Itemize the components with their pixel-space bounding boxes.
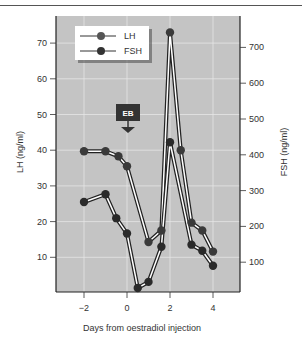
- y2-axis-label: FSH (ng/ml): [279, 128, 289, 177]
- data-point: [166, 138, 174, 146]
- x-tick-label: 0: [124, 303, 129, 313]
- data-point: [114, 152, 122, 160]
- y-tick-label: 30: [37, 181, 47, 191]
- y-tick-label: 40: [37, 145, 47, 155]
- data-point: [144, 238, 152, 246]
- eb-label: EB: [122, 109, 133, 118]
- x-tick-label: 2: [167, 303, 172, 313]
- legend-fsh: FSH: [124, 46, 142, 56]
- y2-tick-label: 300: [249, 186, 264, 196]
- data-point: [101, 190, 109, 198]
- data-point: [157, 243, 165, 251]
- y2-tick-label: 500: [249, 114, 264, 124]
- x-tick-label: 4: [210, 303, 215, 313]
- x-tick-label: −2: [79, 303, 89, 313]
- data-point: [177, 146, 185, 154]
- y2-tick-label: 100: [249, 257, 264, 267]
- y-tick-label: 20: [37, 217, 47, 227]
- y-axis-label: LH (ng/ml): [15, 131, 25, 173]
- y2-tick-label: 600: [249, 78, 264, 88]
- data-point: [123, 229, 131, 237]
- data-point: [157, 226, 165, 234]
- data-point: [166, 28, 174, 36]
- legend-lh: LH: [124, 31, 136, 41]
- y-tick-label: 70: [37, 38, 47, 48]
- lh-marker-icon: [97, 32, 105, 40]
- legend: LH FSH: [75, 26, 152, 63]
- fsh-marker-icon: [97, 47, 105, 55]
- data-point: [80, 198, 88, 206]
- y-tick-label: 10: [37, 252, 47, 262]
- y-tick-label: 50: [37, 110, 47, 120]
- data-point: [198, 247, 206, 255]
- data-point: [112, 214, 120, 222]
- data-point: [187, 240, 195, 248]
- y2-tick-label: 400: [249, 150, 264, 160]
- data-point: [198, 226, 206, 234]
- data-point: [134, 284, 142, 292]
- data-point: [144, 278, 152, 286]
- data-point: [123, 162, 131, 170]
- chart: 10203040506070100200300400500600700−2024…: [0, 0, 302, 344]
- y-tick-label: 60: [37, 74, 47, 84]
- data-point: [80, 147, 88, 155]
- y2-tick-label: 200: [249, 221, 264, 231]
- data-point: [209, 247, 217, 255]
- data-point: [187, 218, 195, 226]
- y2-tick-label: 700: [249, 42, 264, 52]
- data-point: [209, 262, 217, 270]
- x-axis-label: Days from oestradiol injection: [83, 323, 201, 333]
- data-point: [101, 147, 109, 155]
